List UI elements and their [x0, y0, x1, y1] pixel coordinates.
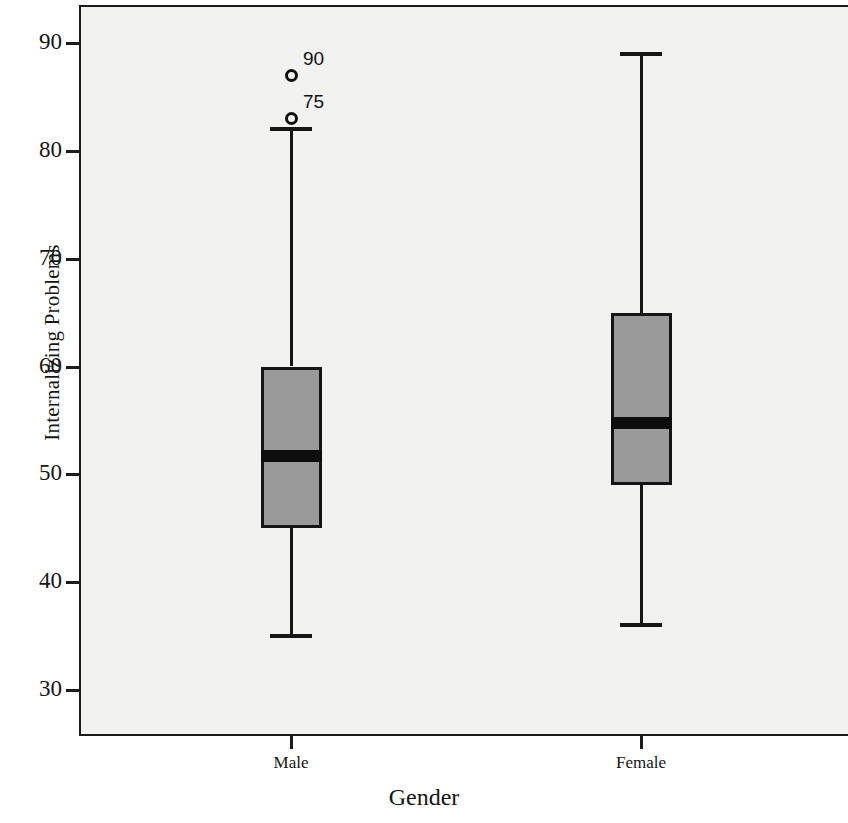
lower-whisker-line — [640, 485, 643, 625]
x-axis-tick-label: Female — [541, 753, 741, 773]
y-axis-tick-mark — [66, 581, 79, 584]
iqr-box — [261, 367, 322, 529]
y-axis-tick-label: 40 — [39, 568, 62, 594]
lower-whisker-cap — [270, 634, 312, 638]
upper-whisker-line — [640, 54, 643, 313]
y-axis-title: Internalizing Problems — [40, 193, 65, 493]
boxplot-figure: Internalizing Problems 30405060708090 Ma… — [0, 0, 848, 823]
outlier-label: 75 — [303, 91, 324, 113]
y-axis-tick-label: 70 — [39, 245, 62, 271]
upper-whisker-line — [290, 129, 293, 366]
lower-whisker-line — [290, 528, 293, 636]
y-axis-tick-mark — [66, 258, 79, 261]
lower-whisker-cap — [620, 623, 662, 627]
x-axis-tick-mark — [290, 736, 293, 749]
outlier-label: 90 — [303, 48, 324, 70]
y-axis-tick-mark — [66, 689, 79, 692]
x-axis-tick-mark — [640, 736, 643, 749]
median-line — [261, 450, 322, 462]
x-axis-title: Gender — [0, 784, 848, 811]
median-line — [611, 417, 672, 429]
y-axis-tick-label: 30 — [39, 676, 62, 702]
iqr-box — [611, 313, 672, 486]
y-axis-tick-label: 50 — [39, 460, 62, 486]
y-axis-tick-label: 60 — [39, 353, 62, 379]
upper-whisker-cap — [270, 127, 312, 131]
y-axis-tick-mark — [66, 473, 79, 476]
y-axis-tick-mark — [66, 42, 79, 45]
y-axis-tick-label: 80 — [39, 137, 62, 163]
y-axis-tick-mark — [66, 150, 79, 153]
y-axis-tick-label: 90 — [39, 29, 62, 55]
plot-area — [79, 5, 848, 736]
x-axis-tick-label: Male — [191, 753, 391, 773]
y-axis-tick-mark — [66, 366, 79, 369]
upper-whisker-cap — [620, 52, 662, 56]
